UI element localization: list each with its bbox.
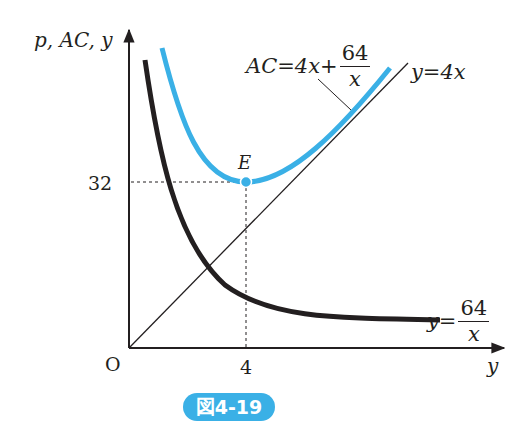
x-tick-4: 4 (240, 358, 252, 377)
y-axis-label: p, AC, y (34, 30, 113, 50)
x-axis-label: y (487, 356, 498, 376)
figure-canvas: p, AC, y O 4 32 y E AC=4x+64x y=4x y=64x… (0, 0, 527, 431)
figure-number-badge: 図4-19 (183, 393, 275, 421)
dashed-guides (131, 182, 246, 348)
ac-formula-prefix: AC=4x+ (246, 54, 338, 78)
hyperbola-prefix: y= (427, 309, 456, 333)
y-tick-32: 32 (88, 174, 112, 193)
point-e-label: E (238, 154, 251, 172)
origin-label: O (105, 355, 121, 374)
hyperbola-denominator: x (458, 322, 489, 345)
hyperbola-formula-label: y=64x (427, 298, 489, 345)
ac-denominator: x (340, 67, 371, 90)
ac-numerator: 64 (340, 43, 371, 67)
line-formula-label: y=4x (411, 62, 466, 83)
ac-fraction: 64x (340, 43, 371, 90)
point-e-marker (241, 177, 252, 188)
hyperbola-fraction: 64x (458, 298, 489, 345)
hyperbola-numerator: 64 (458, 298, 489, 322)
curve-hyperbola (145, 60, 440, 320)
ac-formula-label: AC=4x+64x (246, 43, 370, 90)
